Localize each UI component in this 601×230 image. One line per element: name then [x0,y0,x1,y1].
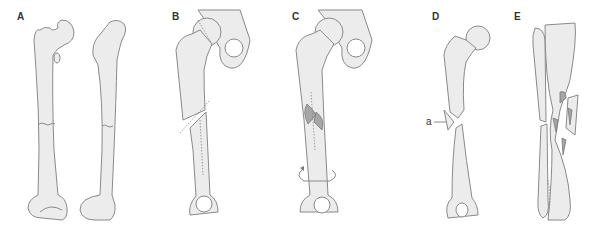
femur-proximal [176,30,212,120]
comminuted-fragment [562,138,566,155]
panel-d: D a [426,11,490,218]
lesser-trochanter [54,53,60,63]
femur-lateral-view [80,20,126,220]
annotation-a: a [426,116,432,127]
panel-label-d: D [432,11,439,22]
femur-anterior-view [28,20,74,220]
fracture-figure: A B C D [0,0,601,230]
panel-e: E [514,11,578,220]
patella [196,196,212,212]
obturator-foramen [347,39,365,57]
panel-a: A [17,11,126,220]
panel-label-c: C [292,11,299,22]
panel-label-a: A [17,11,24,22]
comminuted-fragment [566,95,578,135]
panel-label-b: B [172,11,179,22]
panel-c: C [292,10,372,213]
panel-b: B [172,10,250,215]
patella [314,197,330,213]
fibula-upper [533,28,546,122]
obturator-foramen [225,39,243,57]
fibula-lower [538,124,549,218]
intercondylar-notch [456,203,468,217]
panel-label-e: E [514,11,521,22]
femur-proximal-fragment [444,36,476,118]
